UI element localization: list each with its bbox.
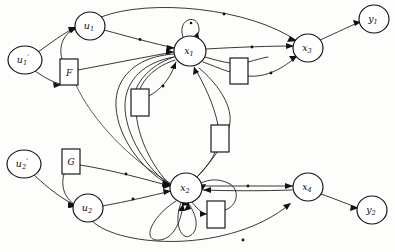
edge-u2-to-x4-bottom bbox=[92, 204, 290, 242]
edge-x2-to-box4 bbox=[192, 202, 207, 214]
selfloop-dot-x1 bbox=[190, 22, 193, 25]
edge-dot-x1-x3 bbox=[251, 46, 254, 49]
box-unlabeled-1[interactable] bbox=[230, 58, 248, 84]
box-1-rect[interactable] bbox=[230, 58, 248, 84]
edge-boxG-to-u2 bbox=[63, 174, 76, 205]
box-F-label: F bbox=[65, 68, 73, 78]
edge-box3-to-x1 bbox=[194, 67, 218, 125]
node-u2[interactable]: u2 bbox=[73, 194, 103, 222]
edge-dot-u2-x4 bbox=[242, 239, 245, 242]
edge-x1-to-x3 bbox=[206, 46, 294, 49]
arrowhead-x4-x2 bbox=[203, 187, 211, 193]
edge-dot-boxG-x2 bbox=[125, 173, 128, 176]
node-y1[interactable]: y1 bbox=[359, 5, 389, 33]
box-F[interactable]: F bbox=[60, 59, 78, 85]
edge-x3-to-y1 bbox=[320, 22, 360, 40]
box-G[interactable]: G bbox=[62, 149, 80, 174]
box-2-rect[interactable] bbox=[131, 89, 149, 116]
edge-u2-to-x2 bbox=[102, 191, 171, 206]
arrowhead-box2-x1 bbox=[170, 62, 176, 69]
edge-dot-box2-x1 bbox=[162, 85, 165, 88]
edge-x2-to-x1-right bbox=[198, 68, 230, 176]
edge-boxF-to-u1 bbox=[61, 28, 77, 59]
edge-dot-u1-x1 bbox=[139, 38, 142, 41]
edge-dot-u2-x2 bbox=[132, 198, 135, 201]
box-3-rect[interactable] bbox=[211, 125, 229, 152]
box-G-label: G bbox=[67, 157, 74, 167]
edge-x1-to-x2-bundleB bbox=[125, 57, 174, 186]
graph-canvas: F G bbox=[0, 0, 395, 252]
edge-x1-to-box2 bbox=[136, 57, 174, 89]
node-x4[interactable]: x4 bbox=[293, 173, 323, 201]
box-unlabeled-4[interactable] bbox=[207, 201, 225, 228]
edge-box1-to-x1 bbox=[248, 57, 268, 62]
edge-u1-to-x3-top bbox=[101, 7, 297, 41]
edge-x1-to-x2-bundleA bbox=[116, 54, 174, 185]
edge-x1-to-box1-lower bbox=[203, 62, 230, 72]
arrowhead-x2-x4 bbox=[285, 183, 293, 189]
edge-dot-box1-x3 bbox=[270, 72, 273, 75]
node-u1-prime[interactable]: u1ʹ bbox=[8, 46, 42, 74]
edge-dot-x2-x4 bbox=[247, 185, 250, 188]
edge-u1p-to-boxF bbox=[35, 71, 60, 84]
edge-u2p-to-u2 bbox=[34, 175, 75, 205]
node-x2[interactable]: x2 bbox=[170, 173, 202, 203]
edge-box1-to-x3 bbox=[248, 56, 297, 76]
box-unlabeled-2[interactable] bbox=[131, 89, 149, 116]
node-u1[interactable]: u1 bbox=[75, 12, 105, 40]
box-unlabeled-3[interactable] bbox=[211, 125, 229, 152]
box-4-rect[interactable] bbox=[207, 201, 225, 228]
node-y2[interactable]: y2 bbox=[357, 196, 387, 224]
node-x1[interactable]: x1 bbox=[174, 36, 206, 66]
signal-flow-graph-diagram: F G bbox=[0, 0, 395, 252]
edge-x1-to-box1-upper bbox=[205, 57, 230, 63]
node-x3[interactable]: x3 bbox=[293, 34, 323, 62]
node-u2-prime[interactable]: u2ʹ bbox=[7, 150, 41, 178]
edge-x4-to-x2 bbox=[203, 190, 292, 191]
edge-x2-to-box3 bbox=[196, 152, 215, 178]
arrowhead-x2-box4 bbox=[200, 211, 207, 217]
edge-dot-u1-x3 bbox=[223, 13, 226, 16]
